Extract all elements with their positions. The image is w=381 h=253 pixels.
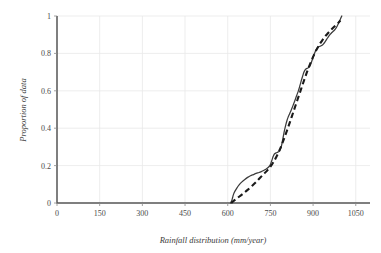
x-tick-label: 1050	[348, 209, 364, 218]
cdf-chart: 01503004506007509001050 00.20.40.60.81 R…	[0, 0, 381, 253]
y-tick-label: 0.4	[41, 124, 51, 133]
x-tick-label: 450	[179, 209, 191, 218]
y-tick-label: 0.6	[41, 87, 51, 96]
y-tick-label: 0	[47, 199, 51, 208]
y-axis-title: Proportion of data	[18, 78, 28, 142]
x-tick-label: 900	[307, 209, 319, 218]
x-tick-label: 0	[55, 209, 59, 218]
x-tick-label: 750	[264, 209, 276, 218]
x-tick-label: 600	[222, 209, 234, 218]
x-tick-label: 150	[94, 209, 106, 218]
y-tick-label: 0.2	[41, 162, 51, 171]
x-axis-title: Rainfall distribution (mm/year)	[159, 235, 267, 245]
x-tick-label: 300	[136, 209, 148, 218]
y-tick-label: 0.8	[41, 49, 51, 58]
y-tick-label: 1	[47, 12, 51, 21]
